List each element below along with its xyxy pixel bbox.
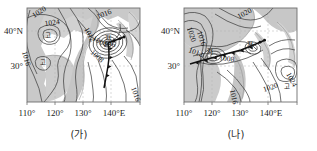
- weather-panel-b: 110° 120° 130° 140°E 40°N 30° 1020 1016 …: [157, 0, 315, 151]
- y-tick-label-40n: 40°N: [161, 26, 181, 36]
- x-tick-label-130: 130°: [231, 108, 249, 118]
- x-tick-label-110: 110°: [19, 108, 36, 118]
- x-tick-label-110: 110°: [176, 108, 193, 118]
- x-tick-label-130: 130°: [74, 108, 92, 118]
- y-tick-label-30: 30°: [10, 61, 23, 71]
- high-mark: 고: [284, 83, 290, 91]
- x-tick-label-120: 120°: [203, 108, 221, 118]
- y-tick-label-40n: 40°N: [4, 26, 24, 36]
- high-mark: 고: [45, 32, 51, 40]
- weather-map-figure: 110° 120° 130° 140°E 40°N 30° 1020 1024 …: [0, 0, 317, 151]
- isobar-label: 1016: [228, 89, 240, 106]
- high-mark: 고: [40, 59, 46, 67]
- panel-caption-b: (나): [157, 126, 315, 141]
- x-tick-label-140: 140°E: [103, 108, 126, 118]
- low-mark: 저: [105, 34, 111, 43]
- x-tick-label-140: 140°E: [260, 108, 283, 118]
- weather-panel-a: 110° 120° 130° 140°E 40°N 30° 1020 1024 …: [0, 0, 158, 151]
- low-mark: 저: [207, 47, 213, 56]
- panel-caption-a: (가): [0, 126, 158, 141]
- low-mark: 저: [247, 40, 253, 49]
- x-tick-label-120: 120°: [46, 108, 64, 118]
- y-tick-label-30: 30°: [167, 61, 180, 71]
